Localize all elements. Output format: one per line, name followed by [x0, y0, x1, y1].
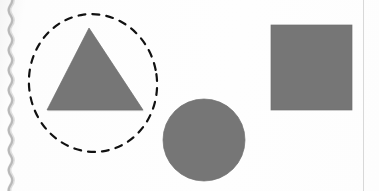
- shape-triangle[interactable]: [42, 23, 148, 115]
- shape-circle[interactable]: [158, 94, 250, 186]
- scanned-page: [0, 0, 379, 191]
- shape-square[interactable]: [266, 20, 357, 115]
- shapes-layer: [0, 0, 379, 191]
